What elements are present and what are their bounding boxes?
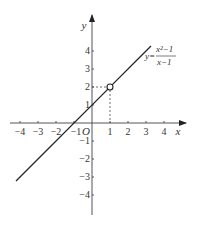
y-tick-label: 3 — [85, 63, 90, 74]
y-tick-label: −2 — [79, 153, 90, 164]
y-tick-label: −3 — [79, 171, 90, 182]
x-tick-label: 1 — [108, 126, 113, 137]
origin-label: O — [82, 125, 90, 137]
x-tick-label: −3 — [33, 126, 44, 137]
function-graph: −4 −3 −2 −1 1 2 3 4 4 3 2 1 −1 −2 −3 −4 … — [0, 0, 202, 228]
x-tick-label: 4 — [162, 126, 167, 137]
x-tick-label: −2 — [51, 126, 62, 137]
function-label-numerator: x²−1 — [155, 44, 173, 54]
y-tick-label: −4 — [79, 189, 90, 200]
function-line-lower — [16, 89, 108, 181]
y-axis-label: y — [81, 19, 87, 31]
y-tick-label: 4 — [85, 45, 90, 56]
hole-point — [107, 84, 113, 90]
x-tick-label: 2 — [126, 126, 131, 137]
x-tick-label: −4 — [15, 126, 26, 137]
x-tick-label: 3 — [144, 126, 149, 137]
function-label-denominator: x−1 — [156, 57, 172, 67]
x-axis-label: x — [175, 125, 181, 137]
y-tick-label: 2 — [85, 81, 90, 92]
function-label-y: y= — [144, 51, 155, 61]
